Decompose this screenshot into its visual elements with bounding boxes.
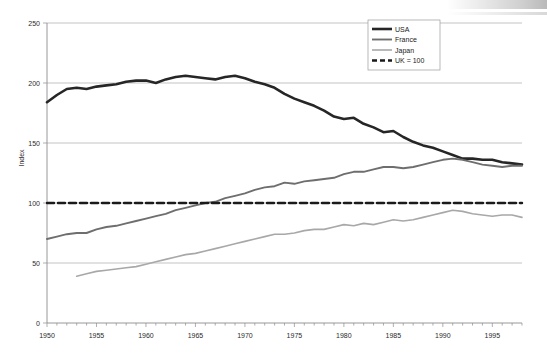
chart-container: 050100150200250 195019551960196519701975…	[0, 0, 547, 355]
y-tickmarks	[43, 23, 47, 323]
x-tick-label-1975: 1975	[287, 332, 303, 339]
y-tick-label-250: 250	[28, 20, 40, 27]
data-series-layer	[47, 76, 522, 276]
x-tick-label-1985: 1985	[386, 332, 402, 339]
y-tick-label-200: 200	[28, 80, 40, 87]
x-tick-label-1990: 1990	[435, 332, 451, 339]
y-tick-label-150: 150	[28, 140, 40, 147]
x-tick-label-1970: 1970	[237, 332, 253, 339]
legend-label: USA	[395, 26, 410, 33]
x-tick-labels: 1950195519601965197019751980198519901995	[39, 332, 500, 339]
axes	[47, 23, 522, 323]
x-tick-label-1995: 1995	[485, 332, 501, 339]
gridlines	[47, 23, 522, 263]
x-tick-label-1965: 1965	[188, 332, 204, 339]
series-line-usa	[47, 76, 522, 165]
chart-legend: USAFranceJapanUK = 100	[368, 20, 440, 70]
line-chart: 050100150200250 195019551960196519701975…	[0, 0, 547, 355]
y-tick-label-100: 100	[28, 200, 40, 207]
y-tick-labels: 050100150200250	[28, 20, 40, 327]
x-tickmarks	[47, 323, 522, 327]
legend-label: UK = 100	[395, 57, 424, 64]
series-line-france	[47, 159, 522, 239]
legend-label: Japan	[395, 47, 414, 55]
x-tick-label-1960: 1960	[138, 332, 154, 339]
x-tick-label-1950: 1950	[39, 332, 55, 339]
x-tick-label-1980: 1980	[336, 332, 352, 339]
legend-label: France	[395, 36, 417, 43]
y-axis-title: Index	[18, 149, 25, 167]
y-tick-label-50: 50	[32, 260, 40, 267]
x-tick-label-1955: 1955	[89, 332, 105, 339]
y-tick-label-0: 0	[36, 320, 40, 327]
